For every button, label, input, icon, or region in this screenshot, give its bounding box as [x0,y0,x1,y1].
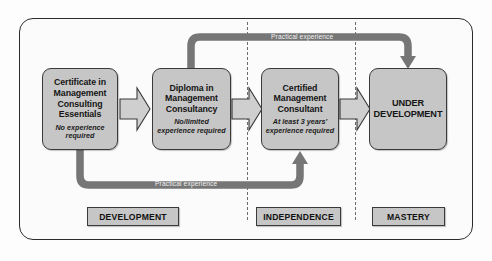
progression-arrow-3 [339,84,371,134]
stage-label-independence: INDEPENDENCE [256,207,341,226]
qualification-box-diploma[interactable]: Diploma in Management Consultancy No/lim… [152,68,231,150]
qualification-requirement: No/limited experience required [156,118,227,135]
qualification-title: Certificate in Management Consulting Ess… [46,77,114,119]
qualification-box-under-development[interactable]: UNDER DEVELOPMENT [369,68,447,150]
qualification-requirement: At least 3 years' experience required [265,118,335,135]
qualification-title: UNDER DEVELOPMENT [373,98,443,120]
feedback-band-top-label: Practical experience [271,33,333,40]
stage-label-development: DEVELOPMENT [87,207,179,226]
qualification-title: Certified Management Consultant [265,83,335,115]
feedback-band-bottom-label: Practical experience [155,180,217,187]
qualification-requirement: No experience required [46,124,114,141]
stage-label-mastery: MASTERY [372,207,445,226]
diagram-canvas: Practical experience Practical experienc… [0,0,492,261]
qualification-box-certified-consultant[interactable]: Certified Management Consultant At least… [261,68,339,150]
progression-arrow-1 [119,84,151,134]
qualification-box-certificate[interactable]: Certificate in Management Consulting Ess… [42,68,118,150]
progression-arrow-2 [231,84,263,134]
qualification-title: Diploma in Management Consultancy [156,83,227,115]
